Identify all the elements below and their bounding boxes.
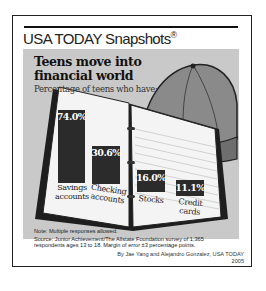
note-text: Note: Multiple responses allowed. xyxy=(34,228,118,235)
brand-text: USA TODAY Snapshots xyxy=(23,30,171,47)
registered-mark: ® xyxy=(171,30,177,40)
chart-title: Teens move into financial world xyxy=(34,55,164,83)
header-rule xyxy=(24,26,238,28)
credit-line-2: 2005 xyxy=(232,258,244,265)
chart-subtitle: Percentage of teens who have: xyxy=(34,84,157,94)
value-savings: 74.0% xyxy=(56,111,87,122)
source-line-2: respondents ages 13 to 18. Margin of err… xyxy=(34,242,195,249)
label-credit: Creditcards xyxy=(171,197,208,217)
credit-line-1: By Jae Yang and Alejandro Gonzalez, USA … xyxy=(117,251,244,258)
brand-title: USA TODAY Snapshots® xyxy=(23,30,177,47)
value-checking: 30.6% xyxy=(90,147,122,158)
value-stocks: 16.0% xyxy=(135,172,167,183)
value-credit: 11.1% xyxy=(174,182,206,193)
label-savings: Savingsaccounts xyxy=(52,184,92,201)
